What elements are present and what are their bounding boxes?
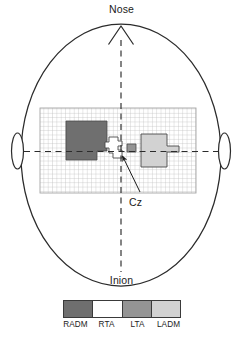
legend (63, 300, 181, 318)
legend-swatch-rta (93, 301, 122, 317)
inion-label: Inion (0, 275, 243, 286)
legend-swatch-lta (123, 301, 152, 317)
legend-label-rta: RTA (91, 321, 122, 329)
nose-label: Nose (0, 4, 243, 15)
legend-swatch-ladm (152, 301, 180, 317)
legend-label-lta: LTA (122, 321, 153, 329)
cz-label: Cz (129, 197, 142, 208)
region-lta-small (127, 144, 136, 152)
head-topography-figure (0, 0, 243, 350)
legend-swatch-radm (64, 301, 93, 317)
legend-labels: RADM RTA LTA LADM (60, 321, 184, 329)
legend-label-radm: RADM (60, 321, 91, 329)
ear-left (12, 133, 24, 169)
ear-right (219, 133, 231, 169)
legend-label-ladm: LADM (153, 321, 184, 329)
